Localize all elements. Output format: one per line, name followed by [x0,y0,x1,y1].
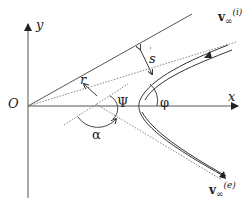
incoming-velocity-label: v∞(i) [218,8,242,26]
origin-label: O [8,97,19,110]
incoming-asymptote [28,42,236,106]
x-axis-label: x [228,90,235,103]
phi-label: φ [160,96,169,109]
alpha-label: α [92,128,101,141]
outgoing-asymptote-lower [96,104,222,180]
y-axis-label: y [36,18,43,31]
trajectory-branch-inner [145,50,232,100]
trajectory-branch-outer [142,112,226,176]
r-label: r [80,73,86,86]
alpha-angle-arc [78,117,116,127]
psi-label: Ψ [117,96,128,109]
s-label: s [149,52,156,65]
outgoing-velocity-label: v∞(e) [209,181,236,199]
reference-line [28,14,192,106]
